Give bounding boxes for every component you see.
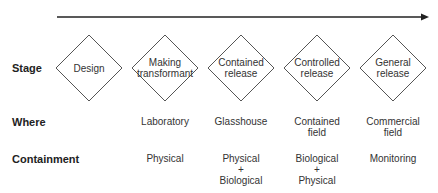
row-label-where: Where xyxy=(12,116,46,128)
row-label-stage: Stage xyxy=(12,62,42,74)
stage-label-line2: release xyxy=(294,68,340,79)
stage-label-line2: release xyxy=(218,68,264,79)
stage-label-line1: Contained xyxy=(218,57,264,68)
stage-diamond-contained-release: Contained release xyxy=(207,34,275,102)
containment-line2: Biological xyxy=(203,175,279,186)
stage-label-line2: transformant xyxy=(137,68,193,79)
stage-diamond-making-transformant: Making transformant xyxy=(131,34,199,102)
stage-label-line1: Controlled xyxy=(294,57,340,68)
containment-plus: + xyxy=(279,164,355,175)
stage-diamond-general-release: General release xyxy=(359,34,427,102)
where-line2: field xyxy=(279,127,355,138)
row-label-containment: Containment xyxy=(12,153,79,165)
where-line1: Contained xyxy=(279,116,355,127)
stage-label-line1: General xyxy=(375,57,411,68)
stage-diamond-controlled-release: Controlled release xyxy=(283,34,351,102)
where-line2: field xyxy=(355,127,431,138)
where-cell-contained-release: Glasshouse xyxy=(203,116,279,127)
containment-cell-general-release: Monitoring xyxy=(355,153,431,164)
containment-cell-contained-release: Physical + Biological xyxy=(203,153,279,186)
containment-cell-making-transformant: Physical xyxy=(127,153,203,164)
timeline-arrow xyxy=(0,0,438,30)
stage-label: Design xyxy=(73,63,104,74)
containment-line1: Biological xyxy=(279,153,355,164)
containment-line2: Physical xyxy=(279,175,355,186)
where-cell-making-transformant: Laboratory xyxy=(127,116,203,127)
where-line1: Commercial xyxy=(355,116,431,127)
stage-label-line1: Making xyxy=(137,57,193,68)
stage-diamond-design: Design xyxy=(55,34,123,102)
where-cell-controlled-release: Contained field xyxy=(279,116,355,138)
containment-plus: + xyxy=(203,164,279,175)
containment-cell-controlled-release: Biological + Physical xyxy=(279,153,355,186)
where-cell-general-release: Commercial field xyxy=(355,116,431,138)
containment-line1: Physical xyxy=(203,153,279,164)
stage-label-line2: release xyxy=(375,68,411,79)
